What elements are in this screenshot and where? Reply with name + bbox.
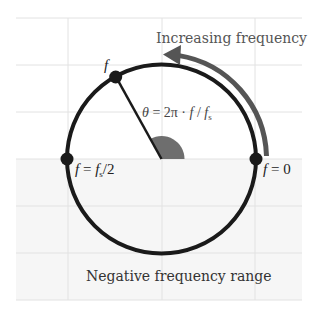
frequency-circle-diagram: Increasing frequency f θ = 2π · f / fs f… — [0, 0, 315, 315]
point-f — [109, 71, 122, 84]
theta-formula: θ = 2π · f / fs — [142, 105, 212, 122]
point-zero — [250, 153, 263, 166]
negative-frequency-label: Negative frequency range — [86, 268, 272, 284]
zero-frequency-label: f = 0 — [263, 161, 291, 177]
point-half-fs — [61, 153, 74, 166]
arrowhead-icon — [163, 45, 181, 65]
increasing-frequency-label: Increasing frequency — [156, 30, 307, 46]
half-sampling-label: f = fs/2 — [75, 161, 115, 179]
